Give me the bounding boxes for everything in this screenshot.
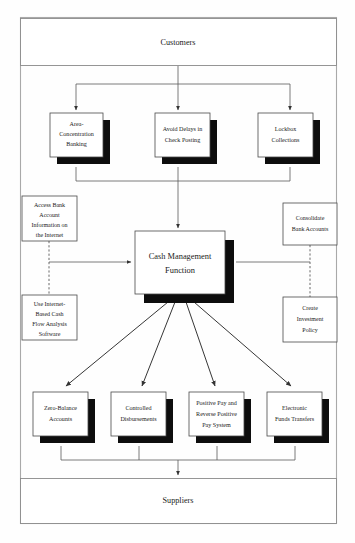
- edge-center-to-zero-balance: [66, 302, 168, 386]
- create-investment-line-1: Create: [302, 305, 318, 311]
- node-use-internet-based-cash-flow-software[interactable]: Use Internet- Based Cash Flow Analysis S…: [22, 295, 77, 340]
- use-internet-line-3: Flow Analysis: [32, 321, 67, 327]
- node-avoid-delays-in-check-posting[interactable]: Avoid Delays in Check Posting: [155, 113, 217, 164]
- diagram-canvas: Customers Area- Concentration Banking Av…: [0, 0, 355, 543]
- node-cash-management-function[interactable]: Cash Management Function: [135, 231, 234, 303]
- suppliers-label: Suppliers: [163, 496, 194, 505]
- node-customers[interactable]: Customers: [21, 19, 337, 66]
- zero-balance-line-2: Accounts: [49, 416, 73, 422]
- edge-center-to-electronic-funds: [194, 302, 291, 386]
- avoid-delays-line-1: Avoid Delays in: [163, 126, 203, 132]
- cash-management-line-2: Function: [165, 266, 196, 275]
- area-concentration-banking-line-1: Area-: [70, 121, 84, 127]
- create-investment-line-3: Policy: [302, 327, 317, 333]
- cash-management-line-1: Cash Management: [149, 252, 212, 261]
- access-bank-line-2: Account: [39, 212, 60, 218]
- cash-management-flowchart: Customers Area- Concentration Banking Av…: [0, 0, 355, 543]
- access-bank-line-3: Information on: [31, 222, 67, 228]
- node-create-investment-policy[interactable]: Create Investment Policy: [283, 297, 337, 342]
- positive-pay-line-2: Reverse Positive: [196, 411, 237, 417]
- use-internet-line-4: Software: [39, 331, 61, 337]
- avoid-delays-line-2: Check Posting: [165, 137, 200, 143]
- use-internet-line-1: Use Internet-: [34, 301, 66, 307]
- edge-center-to-positive-pay: [186, 302, 215, 386]
- use-internet-line-2: Based Cash: [35, 311, 63, 317]
- node-area-concentration-banking[interactable]: Area- Concentration Banking: [50, 113, 110, 164]
- access-bank-line-1: Access Bank: [34, 202, 65, 208]
- node-positive-pay-and-reverse-positive-pay-system[interactable]: Positive Pay and Reverse Positive Pay Sy…: [189, 392, 251, 443]
- node-controlled-disbursements[interactable]: Controlled Disbursements: [111, 392, 173, 443]
- lockbox-collections-line-1: Lockbox: [275, 126, 297, 132]
- lockbox-collections-line-2: Collections: [272, 137, 300, 143]
- consolidate-line-1: Consolidate: [296, 215, 325, 221]
- consolidate-line-2: Bank Accounts: [292, 226, 329, 232]
- node-access-bank-account-information[interactable]: Access Bank Account Information on the I…: [22, 196, 77, 241]
- create-investment-line-2: Investment: [297, 316, 324, 322]
- customers-label: Customers: [160, 38, 195, 47]
- positive-pay-line-1: Positive Pay and: [196, 400, 237, 406]
- node-lockbox-collections[interactable]: Lockbox Collections: [258, 113, 320, 164]
- node-suppliers[interactable]: Suppliers: [21, 479, 337, 524]
- electronic-funds-line-1: Electronic: [282, 405, 307, 411]
- area-concentration-banking-line-2: Concentration: [59, 131, 94, 137]
- controlled-disbursements-line-2: Disbursements: [120, 416, 157, 422]
- area-concentration-banking-line-3: Banking: [66, 141, 87, 147]
- positive-pay-line-3: Pay System: [202, 422, 231, 428]
- access-bank-line-4: the Internet: [36, 232, 64, 238]
- controlled-disbursements-line-1: Controlled: [125, 405, 151, 411]
- node-electronic-funds-transfers[interactable]: Electronic Funds Transfers: [267, 392, 329, 443]
- edge-center-to-controlled-disbursements: [142, 302, 175, 386]
- node-consolidate-bank-accounts[interactable]: Consolidate Bank Accounts: [283, 203, 337, 245]
- node-zero-balance-accounts[interactable]: Zero-Balance Accounts: [33, 392, 95, 443]
- electronic-funds-line-2: Funds Transfers: [275, 416, 315, 422]
- zero-balance-line-1: Zero-Balance: [44, 405, 77, 411]
